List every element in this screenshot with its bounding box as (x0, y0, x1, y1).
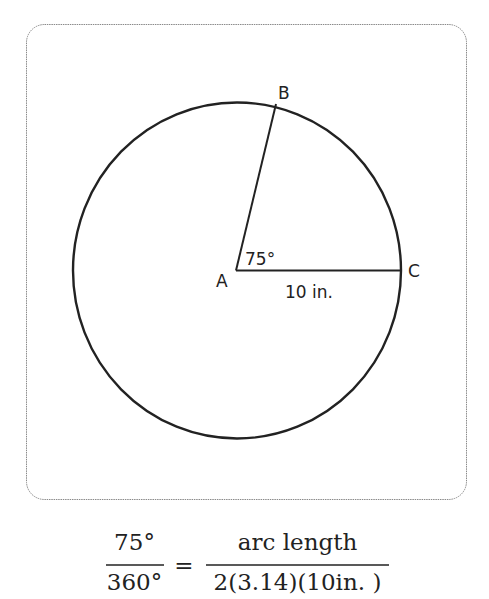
arc-length-equation: 75° 360° = arc length 2(3.14)(10in. ) (106, 529, 389, 595)
radius-ab (236, 104, 276, 271)
radius-label: 10 in. (285, 282, 333, 302)
equals-sign: = (174, 552, 193, 578)
circle-diagram: B A C 75° 10 in. 75° 360° = arc length 2… (0, 0, 489, 599)
point-b-label: B (278, 83, 290, 103)
right-denominator: 2(3.14)(10in. ) (214, 569, 382, 595)
left-numerator: 75° (114, 529, 155, 555)
left-denominator: 360° (107, 569, 162, 595)
right-numerator: arc length (238, 529, 358, 555)
point-c-label: C (408, 261, 420, 281)
point-a-label: A (216, 271, 228, 291)
angle-label: 75° (245, 249, 275, 269)
